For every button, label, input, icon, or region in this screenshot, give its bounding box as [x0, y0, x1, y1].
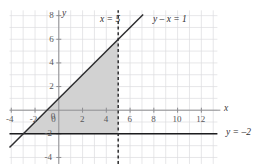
y-tick-label: 8 — [49, 11, 54, 20]
equation-label-line: y – x = 1 — [153, 15, 187, 25]
x-tick-label: 4 — [104, 115, 109, 124]
x-tick-label: 12 — [196, 115, 205, 124]
x-tick-label: 10 — [172, 115, 181, 124]
x-tick-label: -2 — [30, 115, 38, 124]
equation-label-horizontal: y = –2 — [226, 128, 251, 138]
x-tick-label: 6 — [127, 115, 132, 124]
x-axis-label: x — [224, 104, 228, 114]
x-tick-label: -4 — [6, 115, 14, 124]
x-tick-label: 8 — [151, 115, 156, 124]
y-tick-label: 4 — [49, 58, 54, 67]
graph-figure: x y y – x = 1 x = 5 y = –2 -4-2024681012… — [0, 0, 259, 167]
y-tick-label: 2 — [49, 82, 54, 91]
y-tick-label: 6 — [49, 35, 54, 44]
equation-label-vertical: x = 5 — [100, 15, 120, 25]
y-tick-label: -4 — [45, 153, 53, 162]
y-axis-label: y — [62, 9, 66, 19]
origin-label: 0 — [51, 112, 56, 121]
y-tick-label: -2 — [45, 129, 53, 138]
x-tick-label: 2 — [80, 115, 85, 124]
coordinate-plane — [0, 0, 259, 167]
